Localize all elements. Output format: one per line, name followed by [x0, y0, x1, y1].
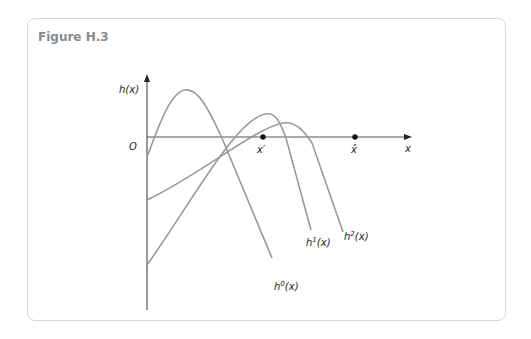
point-x-hat	[352, 134, 357, 139]
point-x-prime	[260, 134, 265, 139]
x-prime-label: x′	[256, 144, 266, 155]
h0-label: h0(x)	[274, 280, 299, 292]
y-axis-label: h(x)	[119, 84, 139, 95]
x-axis-arrow-icon	[404, 134, 412, 140]
h1-label: h1(x)	[306, 236, 331, 248]
y-axis-arrow-icon	[144, 74, 150, 82]
x-hat-label: x̂	[350, 144, 357, 155]
curve-h2	[147, 123, 343, 232]
curve-h0	[147, 90, 272, 258]
diagram-canvas: h(x) O x x′ x̂ h0(x) h1(x) h2(x)	[0, 0, 531, 339]
origin-label: O	[129, 141, 137, 152]
axes	[144, 74, 412, 310]
h2-label: h2(x)	[344, 230, 369, 242]
x-axis-label: x	[404, 143, 411, 154]
